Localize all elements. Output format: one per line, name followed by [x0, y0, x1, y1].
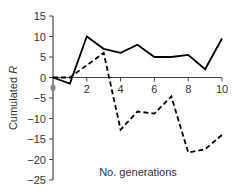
line-chart: 151050−5−10−15−20−25246810 No. generatio… — [0, 0, 239, 194]
y-axis-label-text: Cumulated — [7, 74, 19, 130]
y-tick-label: 10 — [34, 31, 46, 43]
y-axis-label: Cumulated R — [7, 66, 19, 130]
series-line-dashed — [53, 53, 222, 153]
series-group — [53, 37, 222, 153]
x-tick-label: 4 — [118, 83, 124, 95]
x-tick-label: 8 — [185, 83, 191, 95]
y-tick-label: −15 — [27, 133, 46, 145]
x-tick-label: 2 — [84, 83, 90, 95]
x-axis-label: No. generations — [99, 166, 177, 178]
origin-marker — [51, 84, 56, 91]
x-tick-label: 10 — [216, 83, 228, 95]
y-tick-label: 15 — [34, 10, 46, 22]
axes: 151050−5−10−15−20−25246810 — [27, 10, 228, 186]
y-tick-label: −20 — [27, 154, 46, 166]
y-tick-label: −25 — [27, 174, 46, 186]
y-tick-label: −5 — [33, 92, 46, 104]
y-tick-label: −10 — [27, 113, 46, 125]
x-tick-label: 6 — [151, 83, 157, 95]
y-tick-label: 5 — [40, 51, 46, 63]
y-axis-label-var: R — [7, 66, 19, 74]
y-tick-label: 0 — [40, 72, 46, 84]
series-line-solid — [53, 37, 222, 84]
